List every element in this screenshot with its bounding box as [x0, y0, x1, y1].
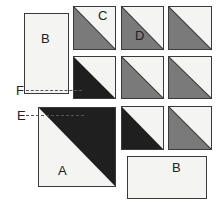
hst-r3c3	[168, 106, 212, 150]
label-e: E	[17, 109, 26, 122]
label-c: C	[98, 9, 107, 22]
rect-b-bottom	[127, 156, 207, 199]
hst-c	[73, 6, 116, 50]
hst-large-a	[38, 107, 116, 187]
label-f: F	[16, 84, 24, 97]
guide-e-dashed-line	[26, 115, 84, 116]
hst-r1c3	[168, 6, 212, 50]
label-d: D	[135, 29, 144, 42]
hst-r2c3	[168, 56, 212, 99]
label-b-top: B	[41, 32, 50, 45]
hst-r2c2	[121, 56, 164, 99]
hst-r2c1	[73, 56, 116, 99]
hst-r3c2	[121, 106, 164, 150]
guide-f-dashed-line	[26, 90, 82, 91]
label-b-bottom: B	[172, 161, 181, 174]
label-a: A	[58, 164, 67, 177]
rect-b-top	[24, 13, 69, 94]
